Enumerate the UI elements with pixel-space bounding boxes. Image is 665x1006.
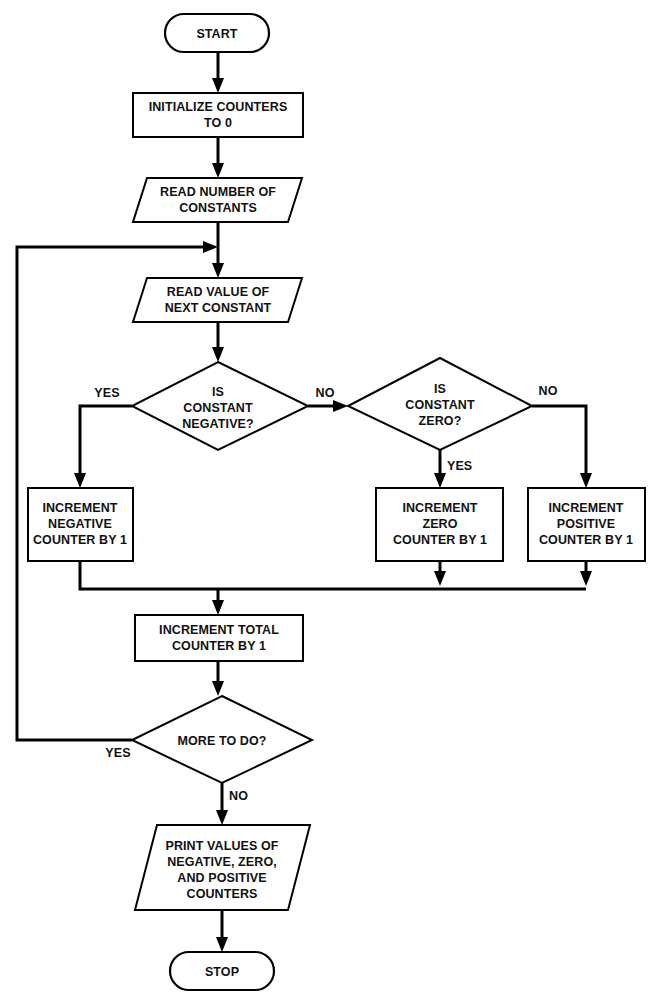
initialize-label-line2: TO 0 [204, 116, 232, 130]
node-stop[interactable]: STOP [170, 952, 274, 990]
connector-negative-yes-to-increment-negative [74, 406, 132, 488]
edge-label-negative-yes: YES [94, 386, 119, 400]
is-zero-label-line1: IS [434, 382, 446, 396]
node-initialize-counters[interactable]: INITIALIZE COUNTERS TO 0 [133, 93, 303, 137]
edge-label-negative-no: NO [316, 386, 335, 400]
read-number-label-line2: CONSTANTS [179, 201, 257, 215]
edge-label-more-yes: YES [105, 746, 130, 760]
increment-zero-label-line2: ZERO [422, 517, 457, 531]
flowchart-canvas: START INITIALIZE COUNTERS TO 0 READ NUMB… [0, 0, 665, 1006]
increment-positive-label-line1: INCREMENT [548, 501, 623, 515]
increment-positive-label-line2: POSITIVE [557, 517, 615, 531]
more-to-do-label: MORE TO DO? [177, 734, 266, 748]
print-values-label-line4: COUNTERS [187, 887, 258, 901]
increment-zero-label-line3: COUNTER BY 1 [393, 533, 487, 547]
increment-total-label-line2: COUNTER BY 1 [172, 639, 266, 653]
connector-zero-no-to-increment-positive [532, 406, 592, 488]
node-is-constant-zero[interactable]: IS CONSTANT ZERO? [348, 358, 532, 450]
read-value-label-line2: NEXT CONSTANT [165, 301, 272, 315]
is-negative-label-line1: IS [212, 385, 224, 399]
connector-start-to-initialize [212, 52, 224, 93]
initialize-label-line1: INITIALIZE COUNTERS [149, 100, 288, 114]
connector-zero-yes-to-increment-zero [434, 450, 446, 488]
node-read-value-next-constant[interactable]: READ VALUE OF NEXT CONSTANT [133, 278, 302, 322]
flowchart-svg: START INITIALIZE COUNTERS TO 0 READ NUMB… [0, 0, 665, 1006]
is-zero-label-line3: ZERO? [419, 414, 462, 428]
start-label: START [196, 27, 237, 41]
increment-total-label-line1: INCREMENT TOTAL [159, 623, 279, 637]
is-zero-label-line2: CONSTANT [405, 398, 475, 412]
increment-positive-label-line3: COUNTER BY 1 [539, 533, 633, 547]
is-negative-label-line2: CONSTANT [183, 401, 253, 415]
connector-negative-no-to-is-zero [308, 400, 348, 412]
connector-counters-merge-to-increment-total [80, 561, 592, 615]
connector-read-number-to-read-value [212, 222, 224, 278]
print-values-label-line3: AND POSITIVE [177, 871, 266, 885]
node-increment-zero-counter[interactable]: INCREMENT ZERO COUNTER BY 1 [376, 488, 503, 561]
print-values-label-line1: PRINT VALUES OF [165, 839, 278, 853]
node-more-to-do[interactable]: MORE TO DO? [132, 696, 312, 783]
increment-zero-label-line1: INCREMENT [402, 501, 477, 515]
connector-print-values-to-stop [216, 910, 228, 952]
connector-initialize-to-read-number [212, 137, 224, 178]
edge-label-zero-yes: YES [447, 459, 472, 473]
node-increment-total-counter[interactable]: INCREMENT TOTAL COUNTER BY 1 [135, 615, 303, 661]
node-increment-negative-counter[interactable]: INCREMENT NEGATIVE COUNTER BY 1 [28, 488, 133, 561]
edge-label-zero-no: NO [539, 384, 558, 398]
node-is-constant-negative[interactable]: IS CONSTANT NEGATIVE? [132, 362, 308, 450]
read-value-label-line1: READ VALUE OF [167, 285, 270, 299]
increment-negative-label-line3: COUNTER BY 1 [33, 533, 127, 547]
read-number-label-line1: READ NUMBER OF [160, 185, 276, 199]
increment-negative-label-line1: INCREMENT [42, 501, 117, 515]
increment-total-process-shape [135, 615, 303, 661]
connector-read-value-to-is-negative [212, 322, 224, 362]
node-start[interactable]: START [165, 14, 269, 52]
node-increment-positive-counter[interactable]: INCREMENT POSITIVE COUNTER BY 1 [528, 488, 645, 561]
node-read-number-of-constants[interactable]: READ NUMBER OF CONSTANTS [133, 178, 302, 222]
print-values-label-line2: NEGATIVE, ZERO, [167, 855, 277, 869]
increment-negative-label-line2: NEGATIVE [48, 517, 112, 531]
stop-label: STOP [205, 965, 239, 979]
node-print-values[interactable]: PRINT VALUES OF NEGATIVE, ZERO, AND POSI… [135, 825, 310, 910]
connector-more-no-to-print-values [216, 783, 228, 825]
edge-label-more-no: NO [229, 789, 248, 803]
is-negative-label-line3: NEGATIVE? [182, 417, 254, 431]
connector-increment-total-to-more-to-do [212, 661, 224, 696]
